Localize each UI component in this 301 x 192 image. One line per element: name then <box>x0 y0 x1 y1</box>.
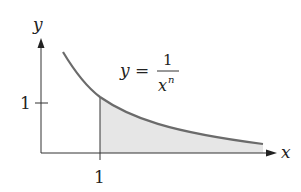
equation-equals: = <box>135 60 149 80</box>
x-tick-label: 1 <box>94 167 105 187</box>
equation-numerator: 1 <box>163 51 173 69</box>
y-tick-label: 1 <box>20 93 31 113</box>
y-axis-arrow-icon <box>38 38 45 48</box>
equation-lhs: y <box>119 60 130 80</box>
diagram-canvas: y x 1 1 y = 1 x n <box>0 0 301 192</box>
x-axis-label: x <box>281 142 291 162</box>
equation-denominator-base: x <box>158 76 167 95</box>
shaded-area <box>100 97 263 153</box>
y-axis-label: y <box>32 14 43 34</box>
x-axis-arrow-icon <box>266 150 277 157</box>
equation: y = 1 x n <box>119 51 179 95</box>
equation-denominator-exponent: n <box>168 74 174 85</box>
